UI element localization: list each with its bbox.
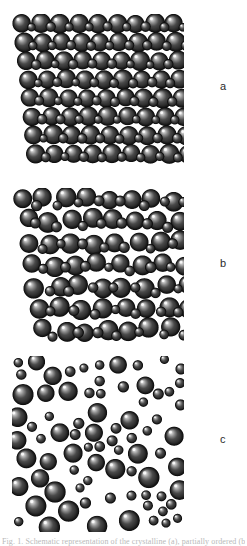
panel-a-ordered xyxy=(12,14,184,166)
panel-c-canvas xyxy=(12,356,184,532)
panel-b-canvas xyxy=(12,188,184,346)
panel-b-label: b xyxy=(220,258,226,269)
panel-a-canvas xyxy=(12,14,184,166)
panel-b-partially-ordered xyxy=(12,188,184,346)
panel-c-label: c xyxy=(220,434,226,445)
figure-caption: Fig. 1. Schematic representation of the … xyxy=(2,537,245,546)
panel-c-disordered xyxy=(12,356,184,532)
panel-a-label: a xyxy=(220,81,226,92)
